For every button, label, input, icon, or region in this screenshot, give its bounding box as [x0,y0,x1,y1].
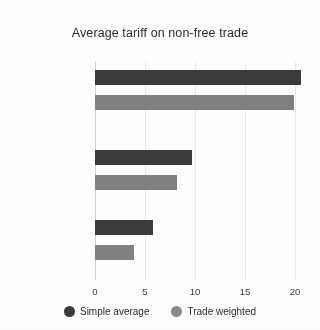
legend-swatch-icon [171,306,182,317]
legend-item-trade-weighted: Trade weighted [171,306,256,317]
x-tick-label: 20 [280,286,310,297]
gridline-20 [295,62,296,280]
x-tick-label: 10 [180,286,210,297]
chart-legend: Simple average Trade weighted [0,306,320,317]
bar [95,175,177,190]
plot-area: 05101520AgricultureManufacturingNatural … [95,62,295,280]
bar [95,70,301,85]
bar [95,245,134,260]
legend-swatch-icon [64,306,75,317]
x-tick-label: 15 [230,286,260,297]
x-tick-label: 5 [130,286,160,297]
chart-figure: Average tariff on non-free trade 0510152… [0,0,320,330]
bar [95,95,294,110]
legend-label: Trade weighted [187,306,256,317]
legend-item-simple-average: Simple average [64,306,149,317]
bar [95,220,153,235]
bar [95,150,192,165]
chart-title: Average tariff on non-free trade [0,26,320,40]
x-tick-label: 0 [80,286,110,297]
legend-label: Simple average [80,306,149,317]
